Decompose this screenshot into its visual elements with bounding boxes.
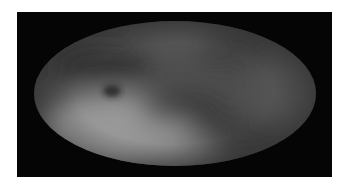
sky-map-shading [34, 21, 316, 166]
sky-map-ellipse [34, 21, 316, 166]
